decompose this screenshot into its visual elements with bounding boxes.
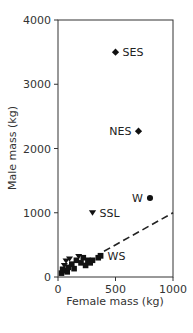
x-tick-label: 0 (55, 283, 62, 296)
point-label-ws: WS (108, 250, 126, 263)
y-axis-ticks: 01000200030004000 (23, 14, 58, 284)
triangle-down-marker (89, 210, 96, 215)
square-marker (98, 253, 104, 259)
scatter-chart: 01000200030004000 05001000 SESNESWSSLWS … (0, 0, 193, 333)
y-tick-label: 1000 (23, 207, 51, 220)
x-axis-title: Female mass (kg) (66, 295, 164, 308)
point-label-w: W (132, 192, 143, 205)
y-axis-title: Male mass (kg) (6, 106, 19, 190)
cluster-points (59, 254, 101, 276)
point-label-ses: SES (123, 46, 144, 59)
y-tick-label: 2000 (23, 143, 51, 156)
y-tick-label: 3000 (23, 78, 51, 91)
diamond-marker (135, 128, 142, 135)
square-marker (90, 257, 96, 263)
y-tick-label: 0 (44, 271, 51, 284)
point-label-nes: NES (109, 125, 131, 138)
square-marker (71, 266, 77, 272)
diamond-marker (112, 49, 119, 56)
plot-frame (58, 20, 173, 277)
x-axis-ticks: 05001000 (55, 277, 188, 296)
y-tick-label: 4000 (23, 14, 51, 27)
circle-marker (147, 195, 153, 201)
labeled-points: SESNESWSSLWS (89, 46, 153, 263)
point-label-ssl: SSL (100, 207, 121, 220)
